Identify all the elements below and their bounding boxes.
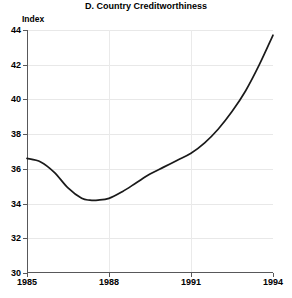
y-axis-tick-label: 42: [11, 60, 21, 70]
plot-area: 3032343638404244 1985198819911994: [27, 30, 273, 273]
y-axis-label: Index: [22, 14, 44, 24]
series-line-chart: [27, 30, 273, 273]
chart-title: D. Country Creditworthiness: [0, 1, 292, 11]
y-axis-tick-label: 34: [11, 199, 21, 209]
chart-container: D. Country Creditworthiness Index 303234…: [0, 0, 292, 298]
x-axis-tick-label: 1994: [263, 277, 283, 287]
y-axis-tick-label: 36: [11, 164, 21, 174]
x-axis-tick-label: 1991: [181, 277, 201, 287]
y-axis-tick-label: 44: [11, 25, 21, 35]
y-axis-tick-label: 32: [11, 233, 21, 243]
y-axis-tick-label: 40: [11, 94, 21, 104]
series-line-country-creditworthiness: [27, 35, 273, 200]
y-axis-tick-label: 38: [11, 129, 21, 139]
x-axis-tick-label: 1988: [99, 277, 119, 287]
x-axis-tick-label: 1985: [17, 277, 37, 287]
